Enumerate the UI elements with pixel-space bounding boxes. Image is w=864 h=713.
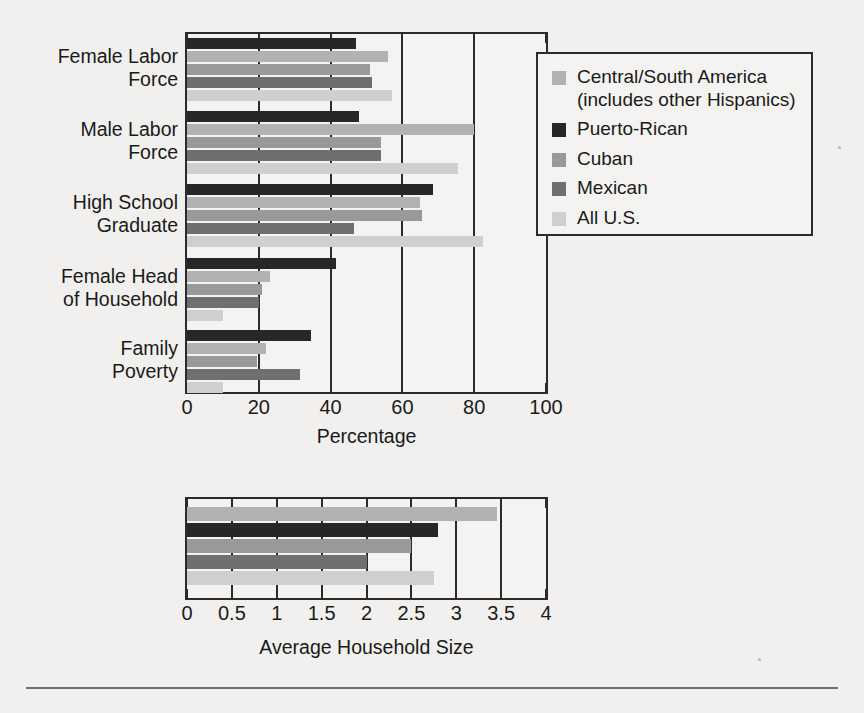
bar-group xyxy=(187,258,546,323)
bar xyxy=(187,163,458,174)
household-size-bar-chart xyxy=(185,497,548,600)
legend: Central/South America(includes other His… xyxy=(536,52,813,236)
bar xyxy=(187,356,257,367)
gridline xyxy=(500,499,502,598)
bar xyxy=(187,382,223,393)
top-chart-axis-tick-labels: 020406080100 xyxy=(185,396,548,424)
category-label: Female LaborForce xyxy=(0,45,178,92)
top-chart-axis-title: Percentage xyxy=(185,425,548,448)
axis-tick-label: 0.5 xyxy=(218,602,246,625)
category-label: Male LaborForce xyxy=(0,118,178,165)
legend-label: Puerto-Rican xyxy=(577,118,688,141)
legend-swatch-icon xyxy=(552,212,566,226)
axis-tick-label: 3 xyxy=(451,602,462,625)
axis-tick xyxy=(231,589,233,598)
legend-item[interactable]: All U.S. xyxy=(538,207,811,230)
axis-tick-label: 40 xyxy=(319,396,341,419)
bar-group xyxy=(187,111,546,176)
axis-tick xyxy=(545,589,547,598)
bar xyxy=(187,555,367,569)
bar xyxy=(187,51,388,62)
legend-item[interactable]: Mexican xyxy=(538,177,811,200)
bar-group xyxy=(187,184,546,249)
axis-tick-label: 20 xyxy=(248,396,270,419)
axis-tick xyxy=(366,589,368,598)
bar xyxy=(187,297,259,308)
bar xyxy=(187,271,270,282)
axis-tick-label: 2.5 xyxy=(397,602,425,625)
legend-label: Cuban xyxy=(577,148,633,171)
bar xyxy=(187,523,438,537)
axis-tick-label: 3.5 xyxy=(487,602,515,625)
scan-speck xyxy=(758,658,761,661)
axis-tick xyxy=(455,589,457,598)
bar-group xyxy=(187,38,546,103)
bar xyxy=(187,258,336,269)
axis-tick-label: 80 xyxy=(463,396,485,419)
axis-tick-label: 0 xyxy=(181,602,192,625)
legend-item[interactable]: Puerto-Rican xyxy=(538,118,811,141)
axis-tick-label: 100 xyxy=(529,396,562,419)
bar xyxy=(187,330,311,341)
legend-swatch-icon xyxy=(552,153,566,167)
bar xyxy=(187,124,474,135)
axis-tick xyxy=(545,499,547,508)
legend-item[interactable]: Cuban xyxy=(538,148,811,171)
bar xyxy=(187,137,381,148)
legend-swatch-icon xyxy=(552,182,566,196)
bar xyxy=(187,343,266,354)
bar xyxy=(187,369,300,380)
legend-swatch-icon xyxy=(552,71,566,85)
axis-tick xyxy=(410,589,412,598)
bar xyxy=(187,197,420,208)
bar xyxy=(187,223,354,234)
bottom-chart-axis-title: Average Household Size xyxy=(185,636,548,659)
bar xyxy=(187,571,434,585)
category-label: FamilyPoverty xyxy=(0,337,178,384)
axis-tick xyxy=(500,499,502,508)
figure-canvas: Female LaborForceMale LaborForceHigh Sch… xyxy=(0,0,864,713)
bar xyxy=(187,184,433,195)
bottom-chart-axis-tick-labels: 00.511.522.533.54 xyxy=(185,602,548,630)
axis-tick-label: 1 xyxy=(271,602,282,625)
axis-tick xyxy=(321,589,323,598)
axis-tick-label: 60 xyxy=(391,396,413,419)
bar xyxy=(187,210,422,221)
legend-label: Mexican xyxy=(577,177,648,200)
category-label: High SchoolGraduate xyxy=(0,191,178,238)
percentage-bar-chart xyxy=(185,32,548,394)
legend-swatch-icon xyxy=(552,123,566,137)
bar xyxy=(187,111,359,122)
legend-label: All U.S. xyxy=(577,207,640,230)
axis-tick-label: 1.5 xyxy=(308,602,336,625)
bar xyxy=(187,64,370,75)
bar xyxy=(187,284,262,295)
bar xyxy=(187,539,411,553)
scan-speck xyxy=(838,146,841,149)
axis-tick-label: 4 xyxy=(540,602,551,625)
bottom-chart-plot-area xyxy=(187,499,546,598)
bar xyxy=(187,90,392,101)
top-chart-plot-area xyxy=(187,34,546,392)
axis-tick-label: 0 xyxy=(181,396,192,419)
bar xyxy=(187,38,356,49)
axis-tick-label: 2 xyxy=(361,602,372,625)
bar xyxy=(187,150,381,161)
footer-divider xyxy=(26,687,838,689)
legend-label: Central/South America(includes other His… xyxy=(577,66,796,111)
bar xyxy=(187,236,483,247)
bar xyxy=(187,77,372,88)
bar xyxy=(187,310,223,321)
axis-tick xyxy=(186,589,188,598)
bar xyxy=(187,507,497,521)
axis-tick xyxy=(276,589,278,598)
bar-group xyxy=(187,330,546,395)
category-label: Female Headof Household xyxy=(0,265,178,312)
legend-item[interactable]: Central/South America(includes other His… xyxy=(538,66,811,111)
axis-tick xyxy=(500,589,502,598)
